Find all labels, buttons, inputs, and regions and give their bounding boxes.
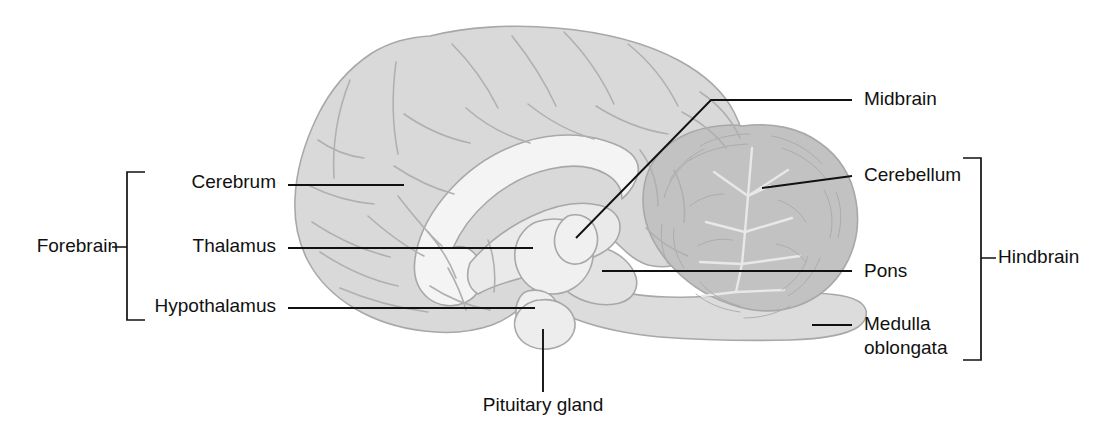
- brain-diagram-figure: Forebrain Cerebrum Thalamus Hypothalamus…: [0, 0, 1112, 441]
- label-cerebrum: Cerebrum: [192, 171, 276, 192]
- brain-illustration: Forebrain Cerebrum Thalamus Hypothalamus…: [0, 0, 1112, 441]
- label-medulla-oblongata-line1: Medulla: [864, 313, 931, 334]
- label-pons: Pons: [864, 260, 907, 281]
- cerebellum-shape: [643, 125, 858, 311]
- label-forebrain: Forebrain: [37, 235, 118, 256]
- brain-artwork: [295, 26, 866, 349]
- label-medulla-oblongata-line2: oblongata: [864, 337, 948, 358]
- label-thalamus: Thalamus: [193, 235, 276, 256]
- label-pituitary-gland: Pituitary gland: [483, 394, 603, 415]
- label-cerebellum: Cerebellum: [864, 164, 961, 185]
- label-hypothalamus: Hypothalamus: [155, 295, 276, 316]
- label-midbrain: Midbrain: [864, 88, 937, 109]
- hindbrain-bracket: [963, 158, 996, 360]
- label-hindbrain: Hindbrain: [998, 246, 1079, 267]
